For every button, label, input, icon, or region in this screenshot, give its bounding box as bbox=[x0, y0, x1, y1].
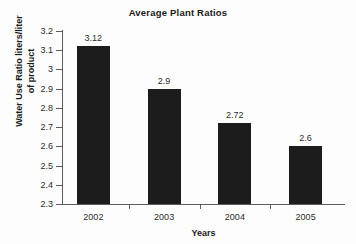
y-axis-tick-mark bbox=[56, 31, 62, 32]
bar-value-label: 2.9 bbox=[158, 76, 171, 86]
bar-2005 bbox=[289, 146, 322, 204]
y-axis-tick-label: 3.1 bbox=[40, 45, 53, 55]
x-axis-tick-mark bbox=[129, 204, 130, 209]
chart-title: Average Plant Ratios bbox=[0, 7, 356, 18]
x-axis-category-label: 2002 bbox=[83, 212, 103, 222]
y-axis-tick-mark bbox=[56, 108, 62, 109]
bar-value-label: 2.6 bbox=[299, 133, 312, 143]
y-axis-tick-label: 2.3 bbox=[40, 199, 53, 209]
y-axis-tick-mark bbox=[56, 185, 62, 186]
y-axis-tick-mark bbox=[56, 146, 62, 147]
x-axis-category-label: 2003 bbox=[154, 212, 174, 222]
y-axis-tick-mark bbox=[56, 166, 62, 167]
plot-area: 3.23.132.92.82.72.62.52.42.33.122.92.722… bbox=[62, 31, 345, 204]
bar-chart: Average Plant Ratios Water Use Ratio lit… bbox=[0, 0, 356, 244]
bar-2003 bbox=[148, 89, 181, 204]
y-axis-tick-mark bbox=[56, 127, 62, 128]
bar-value-label: 2.72 bbox=[226, 110, 244, 120]
x-axis-category-label: 2004 bbox=[225, 212, 245, 222]
x-axis-line bbox=[62, 204, 345, 205]
x-axis-tick-mark bbox=[270, 204, 271, 209]
x-axis-title: Years bbox=[62, 228, 345, 238]
y-axis-tick-mark bbox=[56, 204, 62, 205]
y-axis-tick-label: 2.5 bbox=[40, 161, 53, 171]
y-axis-tick-mark bbox=[56, 50, 62, 51]
y-axis-tick-mark bbox=[56, 89, 62, 90]
y-axis-tick-label: 2.9 bbox=[40, 84, 53, 94]
y-axis-title: Water Use Ratio liters/liter of product bbox=[14, 0, 44, 161]
x-axis-tick-mark bbox=[200, 204, 201, 209]
y-axis-title-line-1: Water Use Ratio liters/liter bbox=[14, 0, 26, 161]
y-axis-tick-label: 3.2 bbox=[40, 26, 53, 36]
bar-2002 bbox=[77, 46, 110, 204]
y-axis-tick-label: 2.8 bbox=[40, 103, 53, 113]
y-axis-tick-mark bbox=[56, 69, 62, 70]
bar-2004 bbox=[218, 123, 251, 204]
y-axis-tick-label: 2.4 bbox=[40, 180, 53, 190]
bar-value-label: 3.12 bbox=[85, 33, 103, 43]
y-axis-tick-label: 2.6 bbox=[40, 141, 53, 151]
y-axis-tick-label: 2.7 bbox=[40, 122, 53, 132]
y-axis-title-line-2: of product bbox=[26, 0, 38, 161]
x-axis-category-label: 2005 bbox=[296, 212, 316, 222]
y-axis-tick-label: 3 bbox=[48, 64, 53, 74]
